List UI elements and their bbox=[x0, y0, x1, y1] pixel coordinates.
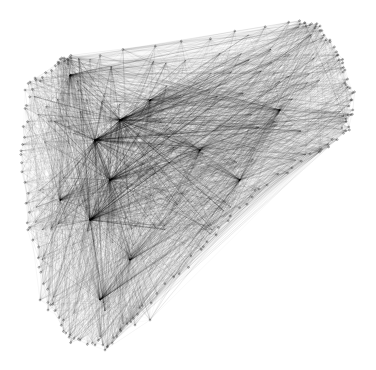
graph-edges bbox=[21, 21, 355, 350]
network-graph-canvas bbox=[0, 0, 376, 370]
network-graph bbox=[0, 0, 376, 370]
